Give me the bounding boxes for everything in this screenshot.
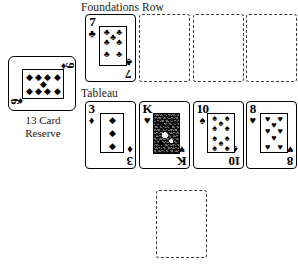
tableau-pip-area: ♥ ♥ ♥ ♥ ♥ ♥ ♥ ♥ (260, 113, 288, 153)
tableau-card-8-of-hearts[interactable]: 8 ♥ 8 ♥ ♥ ♥ ♥ ♥ ♥ ♥ ♥ ♥ (246, 101, 297, 169)
solitaire-board: ♦ 9 ♦ 9 ◆ ◆ ◆ ◆ ◆ ◆ ◆ ◆ ◆ 13 Card Reserv… (0, 0, 298, 269)
card-corner-index-top-left: K ♥ (143, 103, 153, 125)
reserve-caption-line-1: 13 Card (6, 114, 80, 127)
heart-suit-icon: ♥ (144, 115, 151, 125)
spade-suit-icon: ♠ (199, 115, 205, 125)
king-face-artwork (153, 113, 180, 154)
reserve-card-9-of-diamonds[interactable]: ♦ 9 ♦ 9 ◆ ◆ ◆ ◆ ◆ ◆ ◆ ◆ ◆ (8, 56, 76, 111)
card-corner-index-top-left: 7 ♣ (89, 16, 96, 38)
diamond-suit-icon: ♦ (89, 115, 95, 125)
heart-suit-icon: ♥ (250, 115, 257, 125)
diamond-suit-icon: ♦ (127, 145, 133, 155)
card-rank: 7 (126, 68, 132, 80)
card-corner-index-bottom-right: 3 ♦ (127, 145, 133, 167)
reserve-pip-area: ◆ ◆ ◆ ◆ ◆ ◆ ◆ ◆ ◆ (22, 69, 64, 99)
card-rank: 9 (64, 63, 75, 69)
foundation-empty-slot-2[interactable] (193, 14, 244, 82)
card-corner-index-top-left: 8 ♥ (250, 103, 257, 125)
foundation-card-7-of-clubs[interactable]: 7 ♣ 7 ♣ ♣ ♣ ♣ ♣ ♣ ♣ ♣ (85, 14, 136, 82)
tableau-label: Tableau (81, 87, 118, 99)
foundation-pip-area: ♣ ♣ ♣ ♣ ♣ ♣ ♣ (99, 26, 127, 66)
card-corner-index-top-left: 3 ♦ (89, 103, 95, 125)
card-rank: 10 (229, 155, 241, 167)
tableau-card-10-of-spades[interactable]: 10 ♠ 10 ♠ ♠ ♠ ♠ ♠ ♠ ♠ ♠ ♠ ♠ ♠ (193, 101, 244, 169)
reserve-caption-line-2: Reserve (6, 127, 80, 140)
reserve-caption: 13 Card Reserve (6, 114, 80, 140)
tableau-card-king-of-hearts[interactable]: K ♥ K ♥ (139, 101, 190, 169)
tableau-empty-slot-1[interactable] (156, 190, 207, 258)
card-rank: K (177, 155, 187, 167)
tableau-pip-area: ♠ ♠ ♠ ♠ ♠ ♠ ♠ ♠ ♠ ♠ (207, 113, 235, 153)
tableau-pip-area: ◆ ◆ ◆ (100, 113, 124, 153)
foundation-empty-slot-3[interactable] (246, 14, 297, 82)
tableau-card-3-of-diamonds[interactable]: 3 ♦ 3 ♦ ◆ ◆ ◆ (85, 101, 136, 169)
card-rank: 3 (127, 155, 133, 167)
foundations-row-label: Foundations Row (81, 1, 164, 13)
club-suit-icon: ♣ (89, 28, 96, 38)
foundation-empty-slot-1[interactable] (139, 14, 190, 82)
card-rank: 9 (10, 99, 21, 105)
card-rank: 8 (287, 155, 293, 167)
